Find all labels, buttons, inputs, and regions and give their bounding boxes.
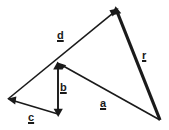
vector-diagram-figure: a b c d r [0,0,169,130]
vector-c-shaft [12,100,58,114]
vector-r-shaft [117,12,160,120]
vector-a-shaft [62,65,161,120]
vector-diagram-canvas [0,0,169,130]
vector-a [57,62,160,120]
vector-label-b: b [60,82,67,93]
vector-label-r: r [142,50,146,61]
vector-label-d: d [57,30,64,41]
vector-label-c: c [28,112,34,123]
vector-label-a: a [100,98,106,109]
vector-r [111,6,160,120]
